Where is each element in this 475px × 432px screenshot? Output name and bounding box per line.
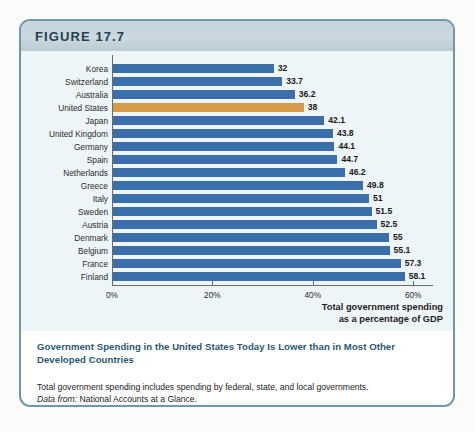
- category-label: Switzerland: [22, 78, 108, 87]
- bar: [113, 64, 274, 73]
- category-label: United States: [22, 104, 108, 113]
- bar-chart-plot: Total government spending as a percentag…: [21, 51, 453, 331]
- x-axis-tick: [313, 281, 314, 285]
- bar-value-label: 44.1: [338, 142, 355, 151]
- bar-value-label: 36.2: [299, 90, 316, 99]
- bar: [113, 77, 282, 86]
- figure-source: Data from: National Accounts at a Glance…: [37, 394, 437, 405]
- caption-block: Government Spending in the United States…: [21, 331, 453, 405]
- category-label: Austria: [22, 221, 108, 230]
- x-axis-tick: [413, 281, 414, 285]
- category-label: Spain: [22, 156, 108, 165]
- bar: [113, 116, 324, 125]
- category-label: Sweden: [22, 208, 108, 217]
- bar: [113, 246, 390, 255]
- figure-note: Total government spending includes spend…: [37, 382, 437, 393]
- category-label: Korea: [22, 65, 108, 74]
- source-text: National Accounts at a Glance.: [80, 394, 198, 404]
- bar-value-label: 43.8: [337, 129, 354, 138]
- bar: [113, 103, 304, 112]
- category-label: Australia: [22, 91, 108, 100]
- bar: [113, 233, 389, 242]
- bar-value-label: 44.7: [341, 155, 358, 164]
- category-label: Belgium: [22, 247, 108, 256]
- bar: [113, 181, 363, 190]
- x-axis-title: Total government spending as a percentag…: [322, 302, 443, 325]
- bar-value-label: 49.8: [367, 181, 384, 190]
- bar-value-label: 42.1: [328, 116, 345, 125]
- x-axis-tick-label: 0%: [106, 290, 118, 300]
- x-axis-line: [112, 285, 433, 286]
- bar-value-label: 52.5: [381, 220, 398, 229]
- bar: [113, 155, 337, 164]
- bar: [113, 259, 401, 268]
- category-label: Japan: [22, 117, 108, 126]
- category-label: United Kingdom: [22, 130, 108, 139]
- bar-value-label: 51: [373, 194, 383, 203]
- x-axis-title-line-2: as a percentage of GDP: [322, 314, 443, 326]
- bar: [113, 90, 295, 99]
- category-label: Greece: [22, 182, 108, 191]
- category-label: France: [22, 260, 108, 269]
- bar-value-label: 57.3: [405, 259, 422, 268]
- source-prefix: Data from:: [37, 394, 77, 404]
- bar-value-label: 38: [308, 103, 318, 112]
- x-axis-title-line-1: Total government spending: [322, 302, 443, 314]
- figure-header: FIGURE 17.7: [21, 21, 453, 51]
- bar: [113, 142, 334, 151]
- bar: [113, 220, 377, 229]
- category-label: Denmark: [22, 234, 108, 243]
- bar-value-label: 51.5: [376, 207, 393, 216]
- bar-value-label: 55.1: [394, 246, 411, 255]
- category-label: Finland: [22, 273, 108, 282]
- bar: [113, 272, 405, 281]
- bar-value-label: 32: [278, 64, 288, 73]
- figure-caption-title: Government Spending in the United States…: [37, 341, 437, 366]
- category-label: Italy: [22, 195, 108, 204]
- bar: [113, 194, 369, 203]
- bar: [113, 207, 372, 216]
- figure-number-label: FIGURE 17.7: [35, 29, 125, 44]
- bar-value-label: 46.2: [349, 168, 366, 177]
- bar: [113, 129, 333, 138]
- x-axis-tick-label: 60%: [405, 290, 422, 300]
- bar-value-label: 55: [393, 233, 403, 242]
- bar-value-label: 58.1: [409, 272, 426, 281]
- bar: [113, 168, 345, 177]
- chart-panel: Total government spending as a percentag…: [21, 51, 453, 331]
- figure-container: FIGURE 17.7 Total government spending as…: [19, 19, 455, 407]
- x-axis-tick-label: 20%: [204, 290, 221, 300]
- x-axis-tick: [212, 281, 213, 285]
- category-label: Germany: [22, 143, 108, 152]
- bar-value-label: 33.7: [286, 77, 303, 86]
- category-label: Netherlands: [22, 169, 108, 178]
- x-axis-tick-label: 40%: [304, 290, 321, 300]
